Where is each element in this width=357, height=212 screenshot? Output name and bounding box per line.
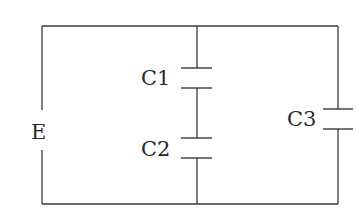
right-branch: C3 bbox=[287, 26, 353, 204]
c1-label: C1 bbox=[141, 66, 170, 90]
c3-label: C3 bbox=[287, 107, 316, 131]
capacitor-c3: C3 bbox=[287, 107, 353, 131]
capacitor-c2: C2 bbox=[141, 137, 212, 161]
source-label: E bbox=[31, 120, 46, 144]
circuit-diagram: E C1 C2 C3 bbox=[0, 0, 357, 212]
middle-branch: C1 C2 bbox=[141, 26, 212, 204]
source-E: E bbox=[31, 26, 46, 204]
c2-label: C2 bbox=[141, 137, 170, 161]
capacitor-c1: C1 bbox=[141, 66, 212, 90]
